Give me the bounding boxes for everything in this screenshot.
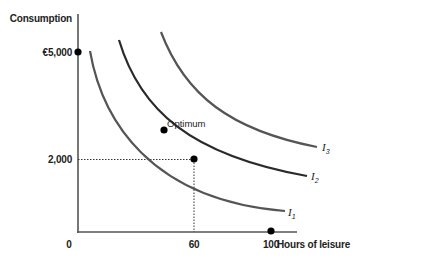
x-intercept-point [267,227,274,234]
y-intercept-point [74,48,81,55]
x-tick-60: 60 [189,239,200,250]
x-tick-0: 0 [66,239,72,250]
indifference-curve-diagram: Consumption Hours of leisure €5,000 2,00… [0,0,430,260]
curve-label-i2: I2 [310,170,319,184]
y-axis-label: Consumption [10,13,72,24]
indifference-curve-i3 [161,32,317,147]
optimum-label: Optimum [167,118,206,129]
chart-svg: Consumption Hours of leisure €5,000 2,00… [0,0,430,260]
indifference-curve-i2 [119,40,307,176]
x-tick-100: 100 [263,239,280,250]
curve-label-i3: I3 [321,141,330,155]
indifference-curve-i1 [90,51,285,211]
curve-label-i1: I1 [287,206,296,220]
y-tick-2000: 2,000 [48,154,73,165]
y-tick-5000: €5,000 [43,47,73,58]
x-axis-label: Hours of leisure [277,239,351,250]
bundle-point [190,155,197,162]
